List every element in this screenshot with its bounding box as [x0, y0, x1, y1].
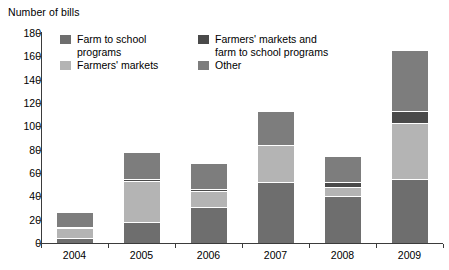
x-tick-mark [242, 244, 243, 248]
y-tick-label: 160 [0, 51, 41, 61]
bar-segment [123, 222, 161, 243]
y-tick-label: 60 [0, 168, 41, 178]
bar-segment [56, 213, 94, 227]
y-axis-ticks: 180 160 140 120 100 80 60 40 20 0 [0, 33, 41, 244]
bar-segment [123, 153, 161, 179]
legend-swatch-icon [60, 35, 71, 44]
bar-segment [324, 157, 362, 183]
bar-segment [257, 145, 295, 182]
legend-swatch-icon [60, 61, 71, 70]
bar-segment [56, 228, 94, 239]
bar-segment [324, 187, 362, 196]
y-tick-label: 180 [0, 28, 41, 38]
x-axis-label-2005: 2005 [112, 249, 172, 261]
x-tick-mark [376, 244, 377, 248]
x-axis-label-2004: 2004 [45, 249, 105, 261]
bar-segment [190, 207, 228, 243]
bar-segment [391, 179, 429, 243]
x-axis-label-2008: 2008 [313, 249, 373, 261]
chart-legend: Farm to school programs Farmers' markets… [60, 33, 390, 83]
x-axis-label-2007: 2007 [246, 249, 306, 261]
y-tick-label: 100 [0, 121, 41, 131]
x-axis-label-2006: 2006 [179, 249, 239, 261]
x-tick-mark [175, 244, 176, 248]
legend-swatch-icon [198, 61, 209, 70]
x-axis-label-2009: 2009 [380, 249, 440, 261]
x-tick-mark [309, 244, 310, 248]
y-tick-label: 20 [0, 215, 41, 225]
bar-segment [190, 191, 228, 207]
bar-segment [391, 123, 429, 179]
legend-label: Other [215, 59, 241, 72]
bar-segment [56, 238, 94, 243]
legend-label-line1: Farm to school [77, 33, 146, 45]
y-tick-label: 80 [0, 145, 41, 155]
y-tick-label: 0 [0, 238, 41, 248]
bar-segment [190, 164, 228, 190]
legend-label: Farm to school programs [77, 33, 146, 58]
bar-segment [257, 182, 295, 243]
legend-label: Farmers' markets [77, 59, 158, 72]
bar-segment [324, 196, 362, 243]
y-tick-label: 120 [0, 98, 41, 108]
y-tick-label: 140 [0, 75, 41, 85]
x-tick-mark [41, 244, 42, 248]
bar-segment [391, 111, 429, 123]
legend-label-line2: programs [77, 46, 121, 58]
bar-2009 [391, 0, 429, 243]
legend-label-line2: farm to school programs [215, 46, 328, 58]
legend-label-line1: Farmers' markets and [215, 33, 317, 45]
bar-segment [257, 112, 295, 145]
bar-segment [123, 181, 161, 222]
x-tick-mark [108, 244, 109, 248]
x-tick-mark [443, 244, 444, 248]
legend-swatch-icon [198, 35, 209, 44]
bar-segment [391, 51, 429, 112]
legend-label: Farmers' markets and farm to school prog… [215, 33, 328, 58]
y-tick-label: 40 [0, 191, 41, 201]
